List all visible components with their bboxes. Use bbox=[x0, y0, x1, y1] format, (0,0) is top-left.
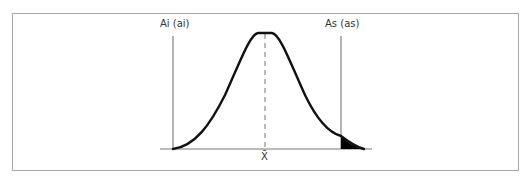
mean-label: X̄ bbox=[261, 151, 268, 162]
bell-curve bbox=[173, 33, 364, 149]
lower-limit-label: Ai (ai) bbox=[160, 18, 190, 29]
upper-limit-label: As (as) bbox=[325, 18, 359, 29]
